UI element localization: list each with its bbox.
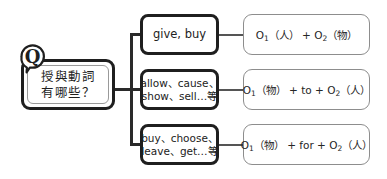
- pattern-3-o2-object: （人）: [342, 139, 372, 151]
- question-badge-letter: Q: [25, 46, 41, 67]
- connector-verb-1-to-pattern-1: [217, 34, 245, 36]
- pattern-box-3[interactable]: O1（物） + for + O2（人）: [243, 124, 370, 165]
- verb-box-3-line-1: buy、choose、: [141, 132, 218, 145]
- pattern-2-o2-object: （人）: [340, 84, 370, 96]
- pattern-3-o2-subscript: 2: [337, 144, 342, 153]
- verb-box-2-line-1: allow、cause、: [140, 77, 218, 90]
- pattern-box-2-text: O1（物） + to + O2（人）: [243, 82, 371, 97]
- verb-box-2[interactable]: allow、cause、 show、sell…等: [140, 69, 219, 110]
- pattern-1-o2-subscript: 2: [323, 34, 328, 43]
- verb-box-3[interactable]: buy、choose、 leave、get…等: [140, 124, 219, 165]
- pattern-box-3-text: O1（物） + for + O2（人）: [241, 137, 373, 152]
- connector-verb-2-to-pattern-2: [217, 89, 245, 91]
- pattern-1-o1-object: （人）: [269, 29, 299, 41]
- pattern-2-o1-subscript: 1: [251, 89, 256, 98]
- verb-box-3-line-2: leave、get…等: [141, 145, 217, 158]
- pattern-box-1-text: O1（人） + O2（物）: [256, 27, 358, 42]
- pattern-3-o1-subscript: 1: [249, 144, 254, 153]
- pattern-1-o1-subscript: 1: [264, 34, 269, 43]
- verb-box-1-line-1: give, buy: [153, 27, 206, 41]
- pattern-2-o2-subscript: 2: [336, 89, 341, 98]
- pattern-box-2[interactable]: O1（物） + to + O2（人）: [243, 69, 370, 110]
- pattern-box-1[interactable]: O1（人） + O2（物）: [243, 14, 370, 55]
- mindmap-diagram: 授與動詞 有哪些？ Q give, buy O1（人） + O2（物） allo…: [0, 0, 387, 179]
- verb-box-2-line-2: show、sell…等: [142, 90, 217, 103]
- question-badge: Q: [18, 42, 50, 74]
- root-question-line-2: 有哪些？: [41, 85, 95, 101]
- verb-box-1[interactable]: give, buy: [140, 14, 219, 55]
- pattern-3-o1-object: （物）: [254, 139, 284, 151]
- pattern-2-preposition: to: [301, 84, 312, 96]
- pattern-1-o2-object: （物）: [327, 29, 357, 41]
- pattern-3-preposition: for: [299, 139, 313, 151]
- pattern-2-o1-object: （物）: [256, 84, 286, 96]
